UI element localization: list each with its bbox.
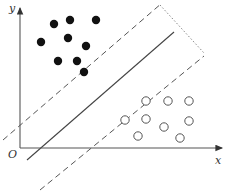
hollow-data-point: [134, 132, 142, 140]
separating-hyperplane: [27, 32, 174, 160]
filled-data-point: [73, 57, 81, 65]
hollow-data-point: [185, 117, 193, 125]
hollow-data-point: [176, 134, 184, 142]
hollow-data-point: [160, 123, 168, 131]
filled-data-point: [66, 16, 74, 24]
filled-data-point: [54, 57, 62, 65]
filled-data-point: [37, 38, 45, 46]
diagram-canvas: y x O: [0, 0, 229, 195]
filled-data-point: [64, 34, 72, 42]
filled-data-point: [82, 42, 90, 50]
filled-data-point: [92, 16, 100, 24]
filled-data-point: [80, 68, 88, 76]
x-axis-label: x: [215, 154, 222, 167]
hollow-data-point: [185, 97, 193, 105]
filled-data-point: [50, 20, 58, 28]
hollow-data-point: [121, 116, 129, 124]
svm-diagram: y x O: [0, 0, 229, 195]
origin-label: O: [8, 148, 17, 161]
hollow-data-point: [142, 97, 150, 105]
hollow-data-point: [164, 97, 172, 105]
hollow-data-point: [142, 115, 150, 123]
margin-width-marker: [160, 5, 204, 53]
y-axis-label: y: [8, 2, 16, 15]
